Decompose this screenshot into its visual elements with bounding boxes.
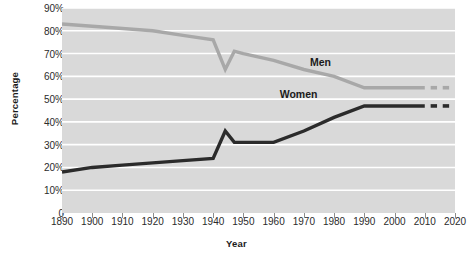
line-chart: Percentage 010%20%30%40%50%60%70%80%90% … [0, 0, 473, 257]
x-tick-mark [213, 213, 214, 218]
plot-area: MenWomen [62, 8, 455, 213]
y-tick-label: 20% [20, 162, 64, 173]
x-tick-mark [304, 213, 305, 218]
series-label-men: Men [310, 56, 331, 68]
series-projection-dash-men [431, 86, 437, 90]
series-projection-dash-men [443, 86, 449, 90]
x-tick-label: 2020 [433, 216, 473, 227]
y-tick-label: 90% [20, 3, 64, 14]
x-tick-mark [243, 213, 244, 218]
y-tick-label: 30% [20, 139, 64, 150]
x-tick-mark [395, 213, 396, 218]
x-tick-mark [364, 213, 365, 218]
x-tick-mark [425, 213, 426, 218]
x-axis-title: Year [0, 238, 473, 249]
x-tick-mark [274, 213, 275, 218]
x-tick-mark [153, 213, 154, 218]
y-tick-label: 10% [20, 185, 64, 196]
y-tick-label: 80% [20, 25, 64, 36]
y-tick-label: 70% [20, 48, 64, 59]
plot-canvas [62, 8, 455, 213]
x-tick-mark [334, 213, 335, 218]
series-projection-dash-women [443, 104, 449, 108]
series-label-women: Women [280, 88, 318, 100]
series-projection-dash-women [431, 104, 437, 108]
x-tick-mark [62, 213, 63, 218]
x-tick-mark [183, 213, 184, 218]
y-tick-label: 50% [20, 94, 64, 105]
x-tick-mark [122, 213, 123, 218]
series-line-men [62, 24, 425, 88]
y-tick-label: 40% [20, 116, 64, 127]
y-axis-title: Percentage [9, 54, 20, 144]
series-lines [62, 24, 449, 172]
gridlines [62, 8, 455, 190]
x-tick-mark [455, 213, 456, 218]
series-line-women [62, 106, 425, 172]
x-tick-mark [92, 213, 93, 218]
y-tick-label: 60% [20, 71, 64, 82]
